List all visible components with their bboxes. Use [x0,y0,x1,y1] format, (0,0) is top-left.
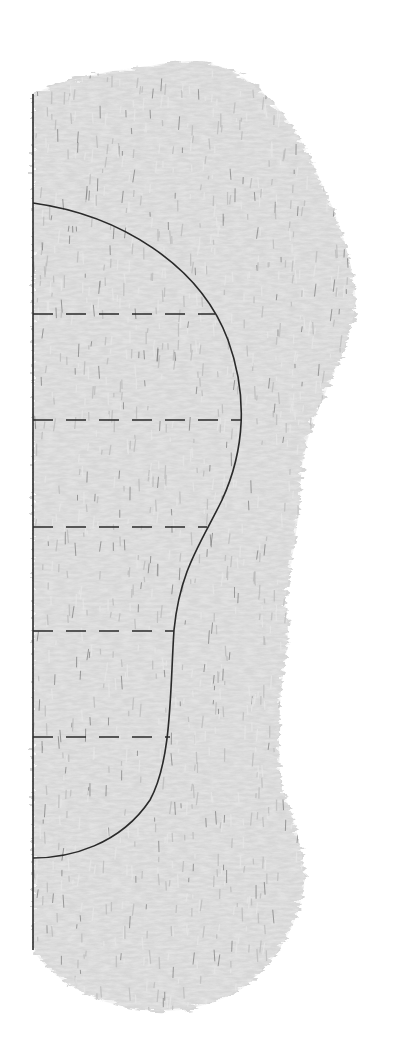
diagram-canvas [0,0,394,1063]
grass-diagram [0,0,394,1063]
grass-texture [0,0,394,1063]
